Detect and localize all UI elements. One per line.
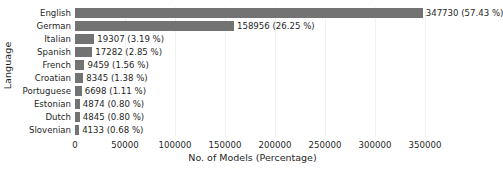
bar[interactable]	[75, 86, 82, 96]
bar-row[interactable]: 347730 (57.43 %)	[75, 7, 430, 20]
x-axis-tick-label: 350000	[409, 139, 442, 151]
bar[interactable]	[75, 60, 84, 70]
bar-row[interactable]: 158956 (26.25 %)	[75, 20, 430, 33]
bar-value-label: 347730 (57.43 %)	[423, 7, 503, 19]
x-axis-tick-label: 0	[72, 139, 77, 151]
x-axis-tick-label: 100000	[159, 139, 192, 151]
bar-row[interactable]: 4845 (0.80 %)	[75, 111, 430, 124]
bar[interactable]	[75, 34, 94, 44]
bar-value-label: 158956 (26.25 %)	[234, 20, 315, 32]
y-axis-tick-label: Spanish	[14, 46, 71, 59]
x-axis-tick-label: 200000	[259, 139, 292, 151]
bar-value-label: 17282 (2.85 %)	[92, 46, 162, 58]
bar-row[interactable]: 17282 (2.85 %)	[75, 46, 430, 59]
bar-row[interactable]: 4874 (0.80 %)	[75, 98, 430, 111]
y-axis-tick-label: German	[14, 20, 71, 33]
bar-value-label: 9459 (1.56 %)	[84, 59, 148, 71]
bar-row[interactable]: 8345 (1.38 %)	[75, 72, 430, 85]
bar-row[interactable]: 9459 (1.56 %)	[75, 59, 430, 72]
y-axis-tick-label: Italian	[14, 33, 71, 46]
y-axis-tick-label: English	[14, 7, 71, 20]
plot-area: 347730 (57.43 %)158956 (26.25 %)19307 (3…	[75, 7, 430, 137]
bar-value-label: 4845 (0.80 %)	[80, 111, 144, 123]
y-axis-tick-label: Croatian	[14, 72, 71, 85]
bar[interactable]	[75, 73, 83, 83]
y-axis-tick-label: French	[14, 59, 71, 72]
y-axis-tick-labels: EnglishGermanItalianSpanishFrenchCroatia…	[14, 7, 71, 137]
bar-value-label: 4874 (0.80 %)	[80, 98, 144, 110]
bar-value-label: 6698 (1.11 %)	[82, 85, 146, 97]
y-axis-tick-label: Estonian	[14, 98, 71, 111]
x-axis-tick-label: 300000	[359, 139, 392, 151]
bar-row[interactable]: 6698 (1.11 %)	[75, 85, 430, 98]
bar-value-label: 8345 (1.38 %)	[83, 72, 147, 84]
bar-value-label: 19307 (3.19 %)	[94, 33, 164, 45]
bar[interactable]	[75, 8, 423, 18]
bar[interactable]	[75, 47, 92, 57]
y-axis-tick-label: Portuguese	[14, 85, 71, 98]
x-axis-tick-label: 250000	[309, 139, 342, 151]
y-axis-title-text: Language	[3, 41, 14, 89]
bar[interactable]	[75, 21, 234, 31]
x-axis-title: No. of Models (Percentage)	[75, 152, 430, 164]
x-axis-tick-labels: 0500001000001500002000002500003000003500…	[75, 139, 430, 151]
bar-row[interactable]: 19307 (3.19 %)	[75, 33, 430, 46]
x-axis-tick-label: 50000	[111, 139, 138, 151]
y-axis-tick-label: Slovenian	[14, 124, 71, 137]
bar-value-label: 4133 (0.68 %)	[79, 124, 143, 136]
bar-row[interactable]: 4133 (0.68 %)	[75, 124, 430, 137]
x-axis-tick-label: 150000	[209, 139, 242, 151]
y-axis-tick-label: Dutch	[14, 111, 71, 124]
